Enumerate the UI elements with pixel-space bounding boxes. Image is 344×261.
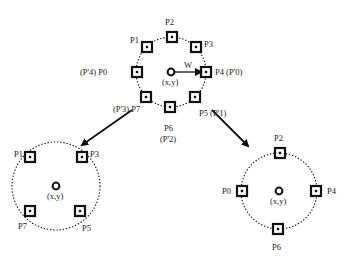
point-label-p5: P5 (P'1) <box>199 109 226 118</box>
sample-point-dot <box>205 71 207 73</box>
sample-point-dot <box>315 190 317 192</box>
point-label-p1: P1 <box>130 36 139 45</box>
p-prime-2-label: (P'2) <box>160 135 176 144</box>
sample-point-dot <box>194 96 196 98</box>
point-label-p0: (P'4) P0 <box>80 68 107 77</box>
center-label: (x,y) <box>270 197 286 206</box>
sample-point-dot <box>195 46 197 48</box>
point-label-p2: P2 <box>165 18 174 27</box>
sample-point-dot <box>241 190 243 192</box>
point-label-p0: P0 <box>222 187 231 196</box>
point-label-p7: (P'3) P7 <box>113 105 140 114</box>
point-label-p7: P7 <box>18 222 27 231</box>
sample-point-dot <box>29 156 31 158</box>
bottom-left-circle-group <box>12 142 100 230</box>
point-label-p1: P1 <box>14 150 23 159</box>
sample-point-dot <box>29 210 31 212</box>
bottom-right-circle-group <box>237 148 321 234</box>
center-point-icon <box>276 188 283 195</box>
point-label-p4: P4 <box>327 187 336 196</box>
sample-point-dot <box>79 210 81 212</box>
point-label-p5: P5 <box>82 224 91 233</box>
point-label-p6: P6 <box>272 243 281 252</box>
sample-point-dot <box>136 71 138 73</box>
top-circle-group <box>132 32 211 112</box>
sample-point-dot <box>169 106 171 108</box>
sample-point-dot <box>146 46 148 48</box>
point-label-p6: P6 <box>164 124 173 133</box>
sample-point-dot <box>171 36 173 38</box>
point-label-p3: P3 <box>204 40 213 49</box>
sample-point-dot <box>145 96 147 98</box>
transition-arrow-0 <box>82 110 132 145</box>
sample-point-dot <box>277 228 279 230</box>
center-label: (x,y) <box>162 78 178 87</box>
center-label: (x,y) <box>47 192 63 201</box>
sample-point-dot <box>279 152 281 154</box>
center-point-icon <box>168 69 175 76</box>
sample-point-dot <box>81 156 83 158</box>
point-label-p3: P3 <box>90 150 99 159</box>
point-label-p4: P4 (P'0) <box>215 68 242 77</box>
center-point-icon <box>53 183 60 190</box>
radius-label: W <box>184 61 192 70</box>
point-label-p2: P2 <box>274 134 283 143</box>
